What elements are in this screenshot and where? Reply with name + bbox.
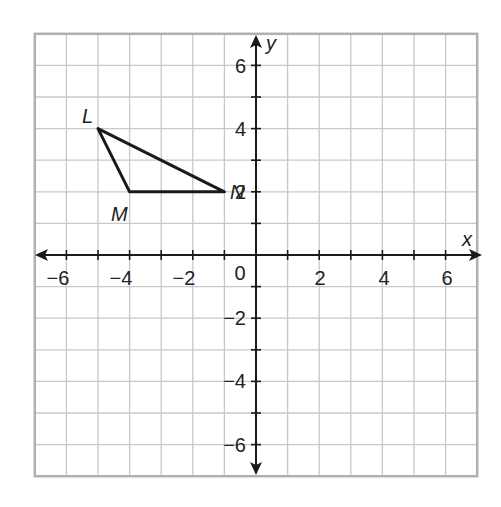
coordinate-plane: −6 −4 −2 2 4 6 0 6 4 2 −2 −4 −6 y x L M … (0, 0, 501, 507)
x-tick-label: −4 (110, 267, 133, 289)
y-tick-label: 4 (235, 118, 246, 140)
y-tick-label: −6 (223, 434, 246, 456)
x-tick-label: −6 (47, 267, 70, 289)
y-tick-label: 6 (235, 55, 246, 77)
x-tick-label: −2 (173, 267, 196, 289)
vertex-label-m: M (111, 203, 128, 225)
x-tick-labels: −6 −4 −2 2 4 6 0 (47, 262, 453, 289)
x-tick-label: 6 (441, 267, 452, 289)
x-axis-label: x (461, 228, 473, 250)
origin-label: 0 (234, 262, 245, 284)
y-tick-label: −2 (223, 307, 246, 329)
vertex-label-l: L (82, 105, 93, 127)
y-tick-label: −4 (223, 370, 246, 392)
x-tick-label: 2 (314, 267, 325, 289)
x-tick-label: 4 (378, 267, 389, 289)
vertex-label-n: N (230, 181, 245, 203)
y-axis-label: y (264, 32, 277, 54)
